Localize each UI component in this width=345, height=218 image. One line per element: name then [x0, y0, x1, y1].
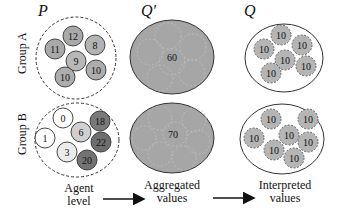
agent-circle: 10 — [55, 67, 75, 87]
diagram-canvas: P Q′ Q Group A Group B 1211891010 016318… — [0, 0, 345, 218]
agent-value: 9 — [74, 56, 79, 67]
header-q: Q — [244, 2, 256, 19]
agent-circle: 6 — [71, 122, 91, 142]
agent-value: 10 — [266, 68, 276, 79]
group-b-agents: 0163182220 — [35, 108, 111, 170]
agent-value: 10 — [91, 65, 101, 76]
agent-value: 10 — [269, 145, 279, 156]
interpreted-agent-circle: 10 — [261, 109, 281, 129]
aggregated-group-b: 70 — [130, 103, 214, 173]
stage-interpreted-line2: values — [270, 191, 301, 205]
agent-circle: 10 — [86, 60, 106, 80]
agent-circle: 18 — [90, 111, 110, 131]
agent-circle: 20 — [77, 150, 97, 170]
group-a-label: Group A — [15, 32, 29, 74]
agent-value: 10 — [249, 133, 259, 144]
agent-value: 0 — [61, 113, 66, 124]
aggregated-b-value: 70 — [168, 129, 178, 140]
agent-circle: 11 — [45, 39, 65, 59]
agent-value: 1 — [43, 133, 48, 144]
interpreted-agent-circle: 10 — [264, 140, 284, 160]
stage-agent-line1: Agent — [64, 181, 94, 195]
interpreted-agent-circle: 10 — [298, 109, 318, 129]
group-b-label: Group B — [15, 113, 29, 155]
header-q-prime: Q′ — [141, 2, 157, 19]
agent-value: 18 — [95, 116, 105, 127]
agent-value: 10 — [289, 153, 299, 164]
agent-circle: 3 — [57, 142, 77, 162]
agent-value: 12 — [68, 31, 78, 42]
agent-value: 11 — [50, 44, 60, 55]
agent-circle: 12 — [63, 26, 83, 46]
header-p: P — [37, 2, 48, 19]
agent-value: 8 — [93, 40, 98, 51]
agent-value: 10 — [297, 40, 307, 51]
agent-value: 10 — [259, 44, 269, 55]
agent-value: 10 — [301, 61, 311, 72]
agent-value: 10 — [266, 114, 276, 125]
interpreted-agent-circle: 10 — [279, 125, 299, 145]
agent-circle: 0 — [53, 108, 73, 128]
interpreted-agent-circle: 10 — [296, 56, 316, 76]
interpreted-agent-circle: 10 — [271, 25, 291, 45]
agent-value: 10 — [60, 72, 70, 83]
agent-value: 10 — [303, 137, 313, 148]
stage-interpreted-line1: Interpreted — [259, 178, 312, 192]
interpreted-agent-circle: 10 — [284, 148, 304, 168]
agent-value: 10 — [303, 114, 313, 125]
aggregated-a-value: 60 — [167, 52, 177, 63]
agent-value: 22 — [96, 137, 106, 148]
agent-value: 3 — [65, 147, 70, 158]
stage-aggregated-line1: Aggregated — [144, 178, 200, 192]
agent-value: 10 — [276, 30, 286, 41]
stage-aggregated-line2: values — [157, 191, 188, 205]
interpreted-agent-circle: 10 — [298, 132, 318, 152]
agent-value: 6 — [79, 127, 84, 138]
agent-circle: 22 — [91, 132, 111, 152]
interpreted-agent-circle: 10 — [261, 63, 281, 83]
aggregated-group-a: 60 — [130, 20, 214, 94]
agent-circle: 1 — [35, 128, 55, 148]
agent-value: 10 — [284, 130, 294, 141]
stage-agent-line2: level — [67, 194, 91, 208]
interpreted-agent-circle: 10 — [292, 35, 312, 55]
agent-circle: 8 — [85, 35, 105, 55]
agent-value: 20 — [82, 155, 92, 166]
agent-value: 10 — [280, 55, 290, 66]
group-a-agents: 1211891010 — [45, 26, 106, 87]
interpreted-agent-circle: 10 — [254, 39, 274, 59]
interpreted-agent-circle: 10 — [244, 128, 264, 148]
